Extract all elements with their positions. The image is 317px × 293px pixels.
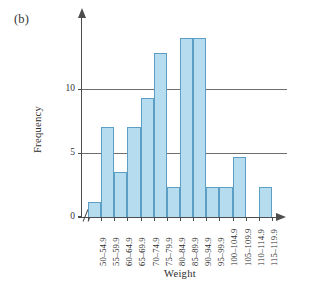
- histogram-figure: (b) 10 5 0 Frequency 50–54.955–59.960–64…: [0, 0, 317, 293]
- y-tick-mark: [78, 89, 82, 90]
- x-tick-label: 65–69.9: [137, 218, 147, 266]
- x-tick-label: 100–104.9: [229, 218, 239, 266]
- x-tick-label: 105–109.9: [243, 218, 253, 266]
- x-tick-label: 110–114.9: [256, 218, 266, 266]
- y-axis-title: Frequency: [32, 85, 43, 175]
- histogram-bar: [219, 187, 232, 217]
- histogram-bar: [154, 53, 167, 217]
- x-tick-label: 55–59.9: [111, 218, 121, 266]
- y-tick-mark: [78, 153, 82, 154]
- y-axis-arrow-icon: [78, 8, 86, 18]
- x-tick-label: 95–99.9: [216, 218, 226, 266]
- x-axis-title: Weight: [88, 268, 272, 279]
- histogram-bar: [259, 187, 272, 217]
- histogram-bar: [127, 127, 140, 217]
- x-tick-label: 115–119.9: [269, 218, 279, 266]
- histogram-bar: [193, 38, 206, 217]
- x-tick-label: 80–84.9: [177, 218, 187, 266]
- y-axis-line: [81, 17, 82, 217]
- bars-container: [88, 17, 272, 217]
- y-tick-label: 5: [55, 148, 75, 158]
- x-tick-label: 85–89.9: [190, 218, 200, 266]
- x-tick-label: 50–54.9: [98, 218, 108, 266]
- histogram-bar: [114, 172, 127, 217]
- x-tick-label: 70–74.9: [151, 218, 161, 266]
- x-tick-labels-container: 50–54.955–59.960–64.965–69.970–74.975–79…: [88, 222, 278, 268]
- y-tick-label: 0: [55, 212, 75, 222]
- x-tick-label: 60–64.9: [124, 218, 134, 266]
- plot-area: 10 5 0 Frequency 50–54.955–59.960–64.965…: [0, 0, 317, 293]
- histogram-bar: [141, 98, 154, 217]
- x-tick-label: 75–79.9: [164, 218, 174, 266]
- histogram-bar: [233, 157, 246, 217]
- histogram-bar: [167, 187, 180, 217]
- histogram-bar: [101, 127, 114, 217]
- histogram-bar: [180, 38, 193, 217]
- histogram-bar: [206, 187, 219, 217]
- y-tick-mark: [78, 216, 82, 217]
- y-tick-label: 10: [55, 84, 75, 94]
- x-tick-mark: [88, 218, 89, 222]
- x-tick-label: 90–94.9: [203, 218, 213, 266]
- histogram-bar: [88, 202, 101, 217]
